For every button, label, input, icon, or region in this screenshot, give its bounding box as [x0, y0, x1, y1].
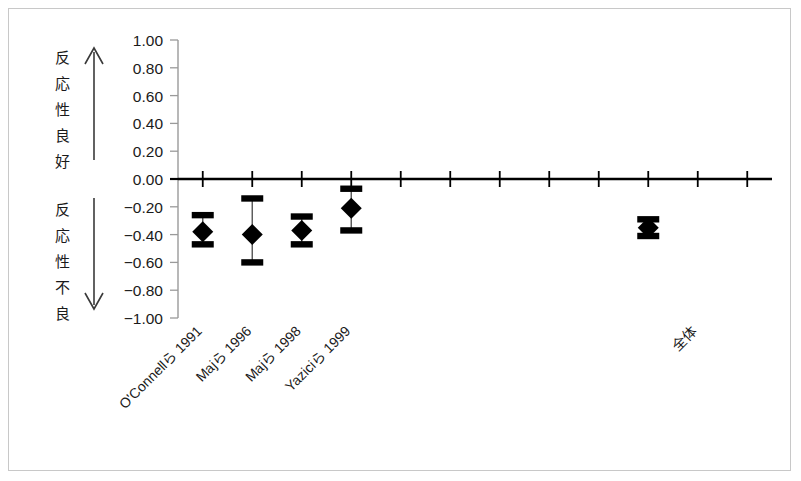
annotation-character: 性 — [55, 253, 70, 271]
annotation-character: 反 — [55, 201, 70, 219]
effect-size-diamond — [192, 221, 213, 242]
effect-size-diamond — [242, 224, 263, 245]
y-axis-tick-label: −0.40 — [124, 227, 164, 244]
annotation-character: 反 — [55, 49, 70, 67]
x-axis-category-labels: O'Connellら 1991Majら 1996Majら 1998Yaziciら… — [116, 323, 700, 412]
data-point — [192, 212, 214, 248]
y-axis-tick-label: 0.20 — [133, 143, 164, 160]
y-axis-tick-label: −0.20 — [124, 199, 164, 216]
error-bar-cap-lower — [291, 241, 313, 247]
effect-size-diamond — [341, 198, 362, 219]
annotation-character: 不 — [55, 279, 70, 297]
error-bar-cap-upper — [192, 212, 214, 218]
y-axis-tick-label: −1.00 — [124, 310, 164, 327]
effect-size-diamond — [291, 220, 312, 241]
data-point — [291, 213, 313, 247]
y-axis-ticks — [170, 40, 178, 318]
upper-axis-annotation: 反応性良好 — [55, 49, 70, 171]
y-axis-tick-label: −0.60 — [124, 254, 164, 271]
error-bar-cap-upper — [291, 213, 313, 219]
error-bar-cap-upper — [340, 186, 362, 192]
y-axis-tick-labels: 1.000.800.600.400.200.00−0.20−0.40−0.60−… — [124, 32, 164, 327]
arrow-down-icon — [85, 198, 103, 309]
annotation-character: 良 — [55, 127, 70, 145]
error-bar-cap-upper — [241, 195, 263, 201]
annotation-character: 好 — [55, 153, 70, 171]
x-axis-category-label: O'Connellら 1991 — [116, 323, 205, 412]
annotation-character: 性 — [55, 101, 70, 119]
annotation-character: 応 — [55, 227, 70, 245]
y-axis-tick-label: 0.40 — [133, 115, 164, 132]
data-point — [340, 186, 362, 234]
lower-axis-annotation: 反応性不良 — [55, 201, 70, 323]
y-axis-tick-label: 0.80 — [133, 60, 164, 77]
data-point — [637, 216, 659, 239]
annotation-character: 応 — [55, 75, 70, 93]
x-axis-category-label: 全体 — [669, 323, 700, 354]
data-point-group — [192, 186, 660, 266]
error-bar-cap-lower — [340, 227, 362, 233]
forest-plot-chart: 1.000.800.600.400.200.00−0.20−0.40−0.60−… — [0, 0, 801, 481]
figure-page: 1.000.800.600.400.200.00−0.20−0.40−0.60−… — [0, 0, 801, 481]
annotation-character: 良 — [55, 305, 70, 323]
arrow-up-icon — [85, 48, 103, 160]
data-point — [241, 195, 263, 265]
y-axis-tick-label: 0.60 — [133, 88, 164, 105]
y-axis-tick-label: 0.00 — [133, 171, 164, 188]
y-axis-tick-label: −0.80 — [124, 282, 164, 299]
error-bar-cap-lower — [241, 259, 263, 265]
y-axis-tick-label: 1.00 — [133, 32, 164, 49]
